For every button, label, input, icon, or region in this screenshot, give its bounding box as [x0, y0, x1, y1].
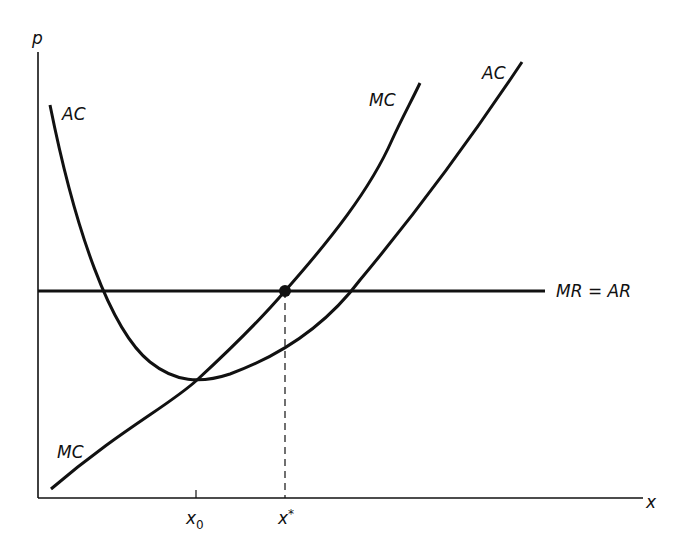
ac-label-left: AC [61, 104, 86, 124]
xstar-label: x* [277, 507, 294, 528]
mc-label-bottom: MC [57, 442, 84, 462]
mc-curve [51, 83, 420, 489]
ac-label-right: AC [481, 63, 506, 83]
xstar-superscript: * [288, 507, 294, 521]
mr-ar-label: MR = AR [556, 281, 631, 301]
x0-subscript: 0 [196, 518, 204, 532]
cost-curves-chart: p x AC AC MC MC MR = AR x0 x* [0, 0, 684, 556]
ac-curve [50, 62, 522, 380]
x0-label: x0 [185, 508, 204, 532]
mc-label-top: MC [369, 90, 396, 110]
y-axis-label: p [31, 28, 43, 48]
x-axis-label: x [645, 492, 657, 512]
equilibrium-point [279, 285, 291, 297]
